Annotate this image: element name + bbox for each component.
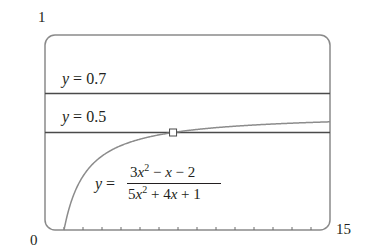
label-y-0.5: y = 0.5 (60, 108, 106, 126)
x-max-label: 15 (336, 221, 351, 237)
label-y-0.7: y = 0.7 (60, 70, 106, 88)
chart: 1 0 15 y = 0.7 y = 0.5 y = 3x2 − x − 2 5… (0, 0, 387, 251)
formula-numerator: 3x2 − x − 2 (130, 162, 195, 180)
formula-denominator: 5x2 + 4x + 1 (128, 184, 201, 202)
intersection-marker (170, 129, 177, 136)
origin-label: 0 (30, 232, 38, 248)
y-max-label: 1 (38, 9, 46, 25)
function-formula: y = 3x2 − x − 2 5x2 + 4x + 1 (93, 162, 221, 202)
formula-lhs: y = (93, 175, 115, 193)
